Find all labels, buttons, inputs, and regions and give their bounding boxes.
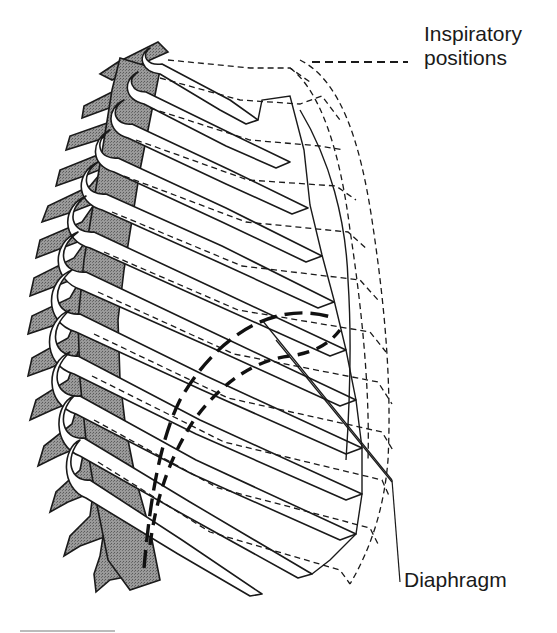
legend-label-inspiratory-positions: Inspiratory positions: [424, 22, 522, 70]
legend-label-line1: Inspiratory: [424, 22, 522, 46]
scale-bar: [20, 630, 115, 632]
diaphragm-leader-lines: [262, 320, 400, 582]
diaphragm-label: Diaphragm: [404, 568, 507, 592]
rib-cage-diagram: [0, 0, 557, 633]
legend-label-line2: positions: [424, 46, 522, 70]
